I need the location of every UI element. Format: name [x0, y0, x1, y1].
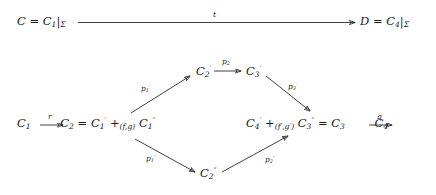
node-mid-right-sum-right-mark: ″	[311, 116, 314, 125]
node-c3-prime-mark: ′	[260, 64, 262, 73]
node-top-left-base: C	[43, 14, 52, 28]
node-mid-right-sum-right: C	[298, 116, 307, 130]
node-c2-double-prime-base: C	[200, 166, 209, 180]
node-mid-right-third: C	[331, 116, 340, 130]
node-top-left: C = C1|Σ	[17, 16, 66, 28]
node-c2-prime: C2′	[196, 66, 211, 78]
node-top-right-eq: =	[373, 14, 383, 28]
arrow-label-p2-prime: p2′	[222, 58, 231, 66]
node-mid-left-second-sub: 2	[69, 122, 74, 131]
node-mid-left-sum-left-mark: ′	[105, 116, 107, 125]
node-mid-right-plus: +	[265, 116, 275, 130]
node-mid-left: C1 C2 = C1′ +(f,g) C1″	[17, 118, 155, 131]
arrow-label-r: r	[48, 113, 52, 121]
arrow-label-p1-double-prime-mark: ″	[154, 154, 156, 160]
arrow-label-p2-double-prime: p2″	[265, 156, 275, 164]
node-mid-left-sum-right: C	[139, 116, 148, 130]
node-top-left-eq: =	[29, 14, 39, 28]
node-mid-left-sum-left: C	[91, 116, 100, 130]
commutative-diagram: C = C1|Σ D = C4|Σ C2′ C3′ C2″ C1 C2 = C1…	[0, 0, 436, 195]
node-mid-left-eq: =	[78, 116, 88, 130]
arrow-p1-dprime	[135, 139, 195, 172]
arrow-layer	[0, 0, 436, 195]
node-mid-left-sum-right-mark: ″	[153, 116, 156, 125]
arrow-label-p1-prime: p1′	[141, 85, 150, 93]
node-top-right-base: C	[386, 14, 395, 28]
node-c2-prime-mark: ′	[210, 64, 212, 73]
node-mid-right-pushout-sub: (f′,g′)	[275, 122, 294, 131]
node-top-left-lhs: C	[17, 14, 26, 28]
node-mid-left-first: C	[17, 116, 26, 130]
node-mid-left-pushout-sub: (f,g)	[120, 122, 136, 131]
node-mid-right-third-sub: 3	[340, 122, 345, 131]
node-mid-right-sum-left: C	[246, 116, 255, 130]
node-mid-left-second: C	[60, 116, 69, 130]
node-c3-prime-base: C	[246, 64, 255, 78]
arrow-label-p1-prime-mark: ′	[149, 84, 150, 90]
node-mid-right-fourth-sub: 4	[383, 122, 388, 131]
node-top-right-domain: Σ	[404, 20, 409, 29]
arrow-label-t: t	[213, 11, 216, 19]
node-mid-right: C4′ +(f′,g′) C3″ = C3 C4	[246, 118, 388, 131]
arrow-p1-prime	[131, 76, 190, 113]
node-c3-prime: C3′	[246, 66, 261, 78]
arrow-p2-dprime	[222, 136, 288, 172]
arrow-label-q: q	[377, 113, 382, 121]
node-mid-right-eq: =	[318, 116, 328, 130]
node-mid-right-sum-left-mark: ′	[260, 116, 262, 125]
node-mid-left-first-sub: 1	[26, 122, 31, 131]
arrow-label-p3-prime: p3′	[288, 83, 297, 91]
node-top-right-lhs: D	[360, 14, 369, 28]
node-c2-prime-base: C	[196, 64, 205, 78]
arrow-label-p3-prime-mark: ′	[296, 82, 297, 88]
arrow-label-p2-double-prime-mark: ″	[273, 155, 275, 161]
node-top-left-domain: Σ	[60, 20, 65, 29]
node-mid-left-plus: +	[110, 116, 120, 130]
arrow-label-p2-prime-mark: ′	[230, 57, 231, 63]
node-c2-double-prime: C2″	[200, 168, 216, 180]
node-c2-double-prime-mark: ″	[214, 166, 217, 175]
arrow-label-p1-double-prime: p1″	[146, 155, 156, 163]
node-top-right: D = C4|Σ	[360, 16, 409, 28]
